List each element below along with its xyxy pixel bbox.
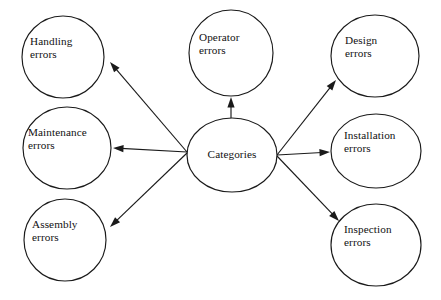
node-installation-errors[interactable] (331, 114, 421, 188)
edge-categories-maintenance-arrowhead (113, 145, 124, 152)
node-handling-errors[interactable] (22, 16, 104, 98)
diagram-graphics (0, 0, 441, 300)
edge-categories-operator[interactable] (227, 97, 234, 119)
node-inspection-errors[interactable] (331, 204, 421, 286)
edge-categories-design-line (277, 86, 331, 155)
node-design-errors[interactable] (331, 15, 419, 97)
edge-categories-handling-line (115, 68, 187, 152)
node-operator-errors[interactable] (189, 10, 273, 96)
edge-categories-operator-arrowhead (227, 97, 234, 108)
node-categories[interactable] (187, 118, 277, 192)
edge-categories-maintenance[interactable] (113, 145, 187, 152)
edge-categories-handling[interactable] (110, 62, 187, 152)
edge-categories-assembly-line (116, 153, 187, 221)
edge-categories-maintenance-line (121, 148, 187, 152)
edge-categories-installation-line (277, 152, 322, 155)
edge-categories-assembly[interactable] (110, 153, 187, 227)
edge-categories-design-arrowhead (327, 80, 336, 90)
edge-categories-installation-arrowhead (319, 149, 330, 156)
edge-categories-inspection-line (277, 156, 333, 215)
edge-categories-design[interactable] (277, 80, 336, 155)
edge-categories-inspection[interactable] (277, 156, 339, 221)
diagram-canvas: Handling errorsMaintenance errorsAssembl… (0, 0, 441, 300)
node-assembly-errors[interactable] (24, 199, 106, 281)
node-maintenance-errors[interactable] (23, 107, 111, 189)
node-layer (22, 10, 421, 286)
edge-categories-installation[interactable] (277, 149, 330, 156)
